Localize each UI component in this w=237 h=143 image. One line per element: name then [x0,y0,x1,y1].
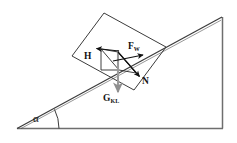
incline-wedge [17,17,223,129]
label-applied-symbol: F [128,41,134,51]
inclined-plane-figure: H FW N GKL α [0,0,237,143]
label-applied-force: FW [128,42,140,52]
incline-slope-line-inner [21,20,221,128]
label-friction-force: H [84,52,91,62]
label-weight-force: GKL [103,94,119,104]
label-incline-angle: α [33,113,39,124]
label-applied-subscript: W [134,46,140,52]
label-weight-subscript: KL [110,98,119,104]
label-normal-symbol: N [142,76,149,86]
incline-slope-line [17,17,222,129]
label-friction-symbol: H [84,51,91,61]
label-normal-force: N [142,77,149,87]
angle-alpha-arc [55,109,60,128]
